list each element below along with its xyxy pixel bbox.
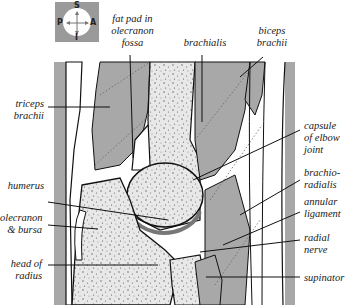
orientation-compass: S I P A: [55, 2, 99, 42]
compass-posterior: P: [57, 18, 63, 27]
label-supinator: supinator: [304, 272, 350, 284]
humerus-trochlea: [127, 163, 203, 227]
elbow-section-illustration: [0, 0, 350, 305]
compass-superior: S: [74, 1, 80, 10]
label-head-of-radius: head of radius: [0, 258, 42, 282]
brachialis-muscle: [195, 62, 250, 180]
skin-posterior: [54, 62, 66, 305]
label-brachialis: brachialis: [180, 37, 230, 49]
label-annular-ligament: annular ligament: [304, 196, 350, 220]
label-radial-nerve: radial nerve: [304, 232, 350, 256]
label-capsule-elbow-joint: capsule of elbow joint: [304, 120, 350, 156]
label-olecranon-bursa: olecranon & bursa: [0, 212, 42, 236]
label-biceps-brachii: biceps brachii: [252, 25, 292, 49]
label-fat-pad: fat pad in olecranon fossa: [105, 13, 160, 49]
label-brachioradialis: brachio- radialis: [304, 167, 350, 191]
compass-anterior: A: [90, 18, 96, 27]
compass-inferior: I: [75, 33, 78, 42]
label-humerus: humerus: [0, 180, 44, 192]
label-triceps-brachii: triceps brachii: [0, 98, 44, 122]
